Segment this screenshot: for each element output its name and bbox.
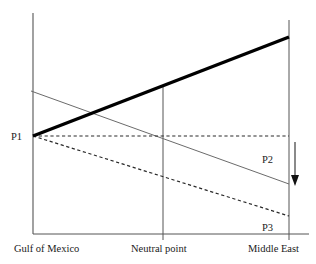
rising-thick-line	[33, 37, 289, 136]
declining-dashed-line	[33, 136, 289, 216]
axis-label-neutral-point: Neutral point	[131, 243, 187, 254]
label-p3: P3	[262, 222, 273, 233]
axis-label-middle-east: Middle East	[248, 243, 299, 254]
downward-arrow-icon	[291, 142, 299, 186]
price-gradient-diagram: P1 P2 P3 Gulf of Mexico Neutral point Mi…	[0, 0, 316, 264]
label-p1: P1	[11, 131, 22, 142]
diagram-canvas: P1 P2 P3 Gulf of Mexico Neutral point Mi…	[0, 0, 316, 264]
declining-thin-line	[31, 91, 289, 184]
axis-label-gulf-of-mexico: Gulf of Mexico	[14, 243, 79, 254]
label-p2: P2	[262, 154, 273, 165]
